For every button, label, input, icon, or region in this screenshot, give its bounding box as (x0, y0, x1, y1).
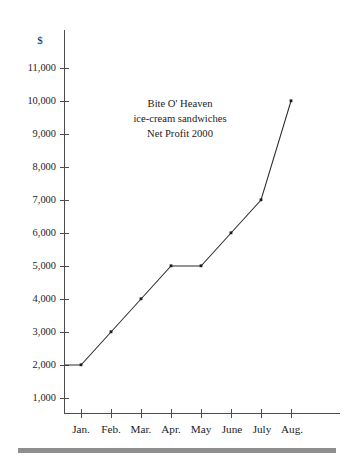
data-point-marker (140, 297, 143, 300)
data-point-marker (80, 363, 83, 366)
y-tick-label: 2,000 (33, 359, 56, 370)
y-tick-label: 7,000 (33, 194, 56, 205)
y-tick-label: 9,000 (33, 128, 56, 139)
x-tick-label: May (191, 423, 212, 435)
y-axis-unit-label: $ (37, 34, 43, 46)
net-profit-series-line (65, 101, 291, 365)
line-chart: 11,000 10,000 9,000 8,000 7,000 6,000 5,… (0, 0, 354, 460)
footer-divider-rule (18, 448, 336, 453)
data-point-marker (200, 264, 203, 267)
chart-figure: 11,000 10,000 9,000 8,000 7,000 6,000 5,… (0, 0, 354, 460)
data-point-marker (110, 330, 113, 333)
chart-title-line-2: ice-cream sandwiches (133, 113, 226, 124)
x-tick-label: Apr. (161, 423, 181, 435)
x-tick-label: Feb. (101, 423, 121, 435)
chart-title-line-1: Bite O' Heaven (148, 98, 214, 109)
y-tick-label: 4,000 (33, 293, 56, 304)
y-tick-label: 3,000 (33, 326, 56, 337)
y-tick-label: 8,000 (33, 161, 56, 172)
net-profit-series-markers (80, 99, 293, 366)
y-tick-label: 10,000 (27, 95, 56, 106)
x-tick-label: July (253, 423, 272, 435)
y-tick-label: 5,000 (33, 260, 56, 271)
chart-title-line-3: Net Profit 2000 (147, 128, 213, 139)
x-tick-label: Mar. (131, 423, 152, 435)
data-point-marker (290, 99, 293, 102)
x-tick-label: Jan. (72, 423, 90, 435)
y-tick-label: 11,000 (28, 62, 56, 73)
x-tick-label: Aug. (281, 423, 303, 435)
y-tick-label: 6,000 (33, 227, 56, 238)
y-tick-label: 1,000 (33, 392, 56, 403)
data-point-marker (260, 198, 263, 201)
data-point-marker (230, 231, 233, 234)
data-point-marker (170, 264, 173, 267)
x-tick-label: June (222, 423, 243, 435)
